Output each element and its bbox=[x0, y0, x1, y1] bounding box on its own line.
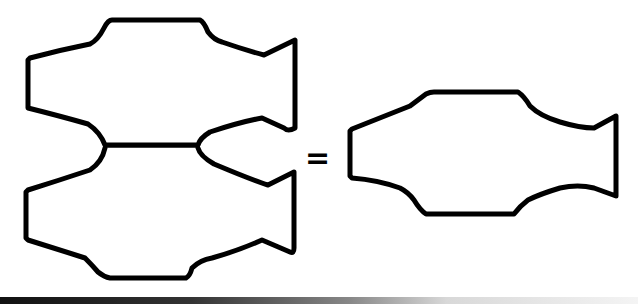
fish-outline-right bbox=[350, 92, 616, 214]
bottom-scan-bar bbox=[0, 297, 638, 304]
equals-sign: = bbox=[305, 143, 330, 173]
fish-outline-top bbox=[28, 20, 295, 145]
fish-outline-bottom bbox=[26, 148, 294, 278]
